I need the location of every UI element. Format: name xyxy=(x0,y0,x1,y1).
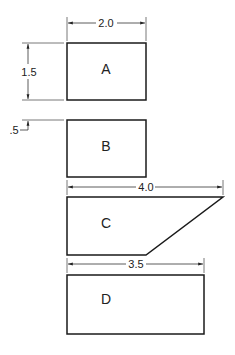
dimension-a-width-label: 2.0 xyxy=(98,17,113,29)
shape-b: B xyxy=(67,120,146,177)
shape-d-label: D xyxy=(101,291,111,307)
dimension-d-width-label: 3.5 xyxy=(128,258,143,270)
shape-b-label: B xyxy=(101,138,110,154)
dimension-c-width-label: 4.0 xyxy=(138,181,153,193)
shape-c: C xyxy=(67,197,223,255)
dimension-c-width: 4.0 xyxy=(67,180,223,195)
shape-d: D xyxy=(67,275,204,334)
dimension-d-width: 3.5 xyxy=(67,258,204,273)
dimension-gap-ab: .5 xyxy=(9,120,64,136)
technical-drawing: A 2.0 1.5 B .5 4.0 C xyxy=(0,0,235,355)
dimension-a-height: 1.5 xyxy=(21,43,64,100)
shape-a: A xyxy=(67,43,146,100)
shape-a-label: A xyxy=(101,61,111,77)
shape-c-label: C xyxy=(101,215,111,231)
dimension-a-height-label: 1.5 xyxy=(21,66,36,78)
dimension-a-width: 2.0 xyxy=(67,17,146,41)
dimension-gap-ab-label: .5 xyxy=(9,124,18,136)
